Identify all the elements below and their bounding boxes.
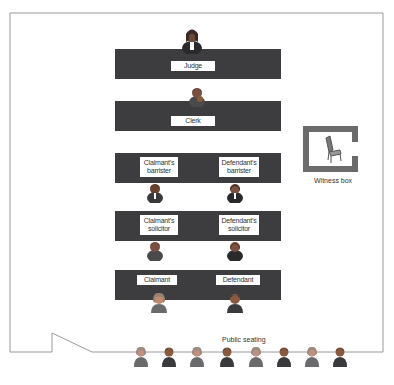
label-line: solicitor [228,225,250,233]
label-line: Defendant's [222,159,257,167]
clerk-label: Clerk [171,116,215,126]
claimant-person-icon [150,291,168,313]
public-person-icon [305,345,319,367]
public-person-icon [277,345,291,367]
chair-icon [326,136,341,163]
label-line: barrister [147,167,171,175]
public-person-icon [220,345,234,367]
solicitors-bench: Claimant's solicitor Defendant's solicit… [115,211,281,241]
claimant-label: Claimant [137,275,177,285]
claimants-barrister-icon [146,181,164,203]
defendant-label: Defendant [216,275,260,285]
public-person-icon [249,345,263,367]
label-line: Defendant's [222,217,257,225]
claimants-solicitor-label: Claimant's solicitor [140,215,178,235]
defendants-barrister-icon [226,181,244,203]
parties-bench: Claimant Defendant [115,270,281,300]
clerk-person-icon [188,85,206,107]
claimants-solicitor-icon [146,239,164,261]
label-line: solicitor [148,225,170,233]
judge-person-icon [181,26,203,54]
defendant-person-icon [226,291,244,313]
defendants-solicitor-label: Defendant's solicitor [219,215,259,235]
public-person-icon [190,345,204,367]
public-person-icon [162,345,176,367]
judge-label: Judge [171,61,215,71]
defendants-solicitor-icon [226,239,244,261]
public-seating-label: Public seating [222,336,266,343]
barristers-bench: Claimant's barrister Defendant's barrist… [115,153,281,183]
label-line: barrister [227,167,251,175]
claimants-barrister-label: Claimant's barrister [140,157,178,177]
public-person-icon [134,345,148,367]
witness-box-label: Witness box [314,177,352,184]
defendants-barrister-label: Defendant's barrister [219,157,259,177]
label-line: Claimant's [144,159,174,167]
public-person-icon [333,345,347,367]
label-line: Claimant's [144,217,174,225]
